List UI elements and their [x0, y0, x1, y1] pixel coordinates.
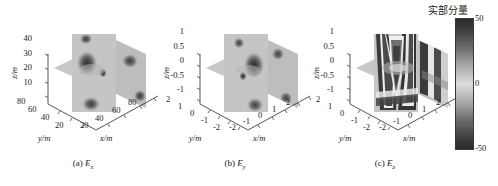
axis-label-y-b: y/m: [189, 133, 201, 143]
axis-ticks-z-a: 40 30 20 10: [14, 31, 32, 89]
x-tick: -1: [393, 116, 400, 126]
x-tick: -1: [243, 116, 250, 126]
z-tick: 0.5: [160, 39, 184, 54]
z-tick: 30: [14, 46, 32, 61]
subplot-caption-b: (b) Ey: [152, 158, 318, 170]
y-tick: -1: [201, 115, 208, 125]
x-tick: 40: [95, 113, 104, 123]
x-tick: -2: [379, 122, 386, 132]
y-tick: 40: [41, 112, 50, 122]
y-tick: -2: [213, 122, 220, 132]
y-tick: 20: [55, 120, 64, 130]
y-tick: 0: [190, 108, 194, 118]
colorbar-tick-min: -50: [475, 143, 486, 153]
y-tick: -1: [351, 115, 358, 125]
subplot-b: z/m 1 0.5 0 -0.5 -1: [152, 0, 318, 186]
axis-label-x-c: x/m: [403, 133, 415, 143]
y-tick: 1: [178, 101, 182, 111]
caption-prefix: (a): [73, 158, 83, 168]
axis-label-y-a: y/m: [38, 133, 50, 143]
z-tick: 0: [310, 53, 334, 68]
y-tick: 60: [28, 104, 37, 114]
z-tick: -0.5: [160, 68, 184, 83]
subplot-a: z/m 40 30 20 10: [0, 0, 166, 186]
z-tick: 1: [160, 24, 184, 39]
figure-canvas: z/m 40 30 20 10: [0, 0, 498, 186]
colorbar-tick-max: 50: [475, 13, 484, 23]
z-tick: 1: [310, 24, 334, 39]
x-tick: 2: [436, 97, 440, 107]
z-tick: 0.5: [310, 39, 334, 54]
y-tick: 0: [340, 108, 344, 118]
y-tick: 2: [316, 94, 320, 104]
x-tick: 0: [258, 110, 262, 120]
z-tick: -1: [310, 82, 334, 97]
z-tick: 40: [14, 31, 32, 46]
axis-label-x-a: x/m: [100, 133, 112, 143]
z-tick: -0.5: [310, 68, 334, 83]
subplot-caption-a: (a) Ex: [0, 158, 166, 170]
axis-label-y-c: y/m: [339, 133, 351, 143]
x-tick: 0: [408, 110, 412, 120]
caption-subscript: z: [393, 163, 396, 170]
x-tick: 80: [128, 97, 137, 107]
caption-prefix: (b): [224, 158, 235, 168]
y-tick: 2: [166, 94, 170, 104]
y-tick: 1: [328, 101, 332, 111]
caption-subscript: x: [90, 163, 93, 170]
x-tick: 1: [422, 104, 426, 114]
z-tick: 10: [14, 75, 32, 90]
axis-label-x-b: x/m: [253, 133, 265, 143]
z-tick: 20: [14, 60, 32, 75]
colorbar-gradient: [455, 18, 474, 150]
x-tick: 1: [272, 104, 276, 114]
colorbar-tick-mid: 0: [475, 78, 479, 88]
y-tick: -2: [363, 122, 370, 132]
axis-ticks-z-b: 1 0.5 0 -0.5 -1: [160, 24, 184, 97]
x-tick: 2: [286, 97, 290, 107]
subplot-c: z/m 1 0.5 0 -0.5 -1: [302, 0, 468, 186]
axis-ticks-z-c: 1 0.5 0 -0.5 -1: [310, 24, 334, 97]
x-tick: 60: [112, 105, 121, 115]
caption-subscript: y: [243, 163, 246, 170]
x-tick: 20: [80, 120, 89, 130]
subplot-caption-c: (c) Ez: [302, 158, 468, 170]
colorbar-title: 实部分量: [428, 2, 468, 17]
caption-prefix: (c): [375, 158, 385, 168]
x-tick: -2: [229, 122, 236, 132]
z-tick: -1: [160, 82, 184, 97]
y-tick: 80: [17, 96, 26, 106]
z-tick: 0: [160, 53, 184, 68]
